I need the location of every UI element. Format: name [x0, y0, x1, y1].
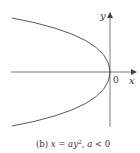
figure-caption: (b) x = ay2, a < 0	[36, 138, 110, 149]
origin-label: 0	[113, 75, 119, 85]
parabola-figure: y x 0 (b) x = ay2, a < 0	[0, 0, 140, 153]
x-axis-label: x	[129, 75, 135, 86]
y-axis-label: y	[99, 10, 106, 21]
